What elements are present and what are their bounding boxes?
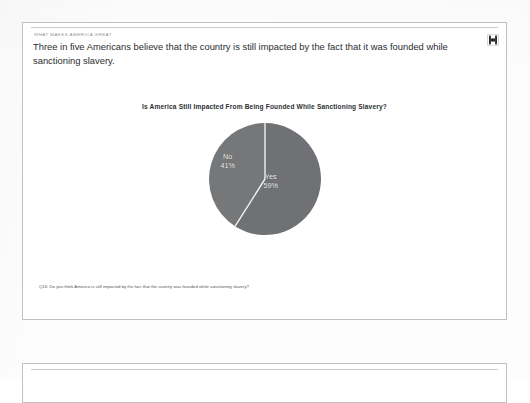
next-slide-top-rule (31, 369, 498, 370)
chart-container: Is America Still Impacted From Being Fou… (23, 103, 506, 237)
brand-logo-icon (487, 32, 499, 44)
chart-title: Is America Still Impacted From Being Fou… (142, 103, 387, 112)
pie-label-no: No 41% (221, 152, 235, 170)
pie-label-no-text: No (223, 152, 232, 161)
slide-page: WHAT MAKES AMERICA GREAT Three in five A… (22, 22, 507, 320)
pie-label-yes-text: Yes (265, 172, 277, 181)
page-title: Three in five Americans believe that the… (33, 40, 481, 68)
pie-label-yes: Yes 59% (264, 172, 278, 190)
slide-eyebrow-label: WHAT MAKES AMERICA GREAT (34, 32, 112, 37)
chart-footnote: Q16: Do you think America is still impac… (39, 284, 269, 290)
pie-chart: No 41% Yes 59% (207, 121, 323, 237)
slide-top-rule (31, 27, 498, 28)
next-slide-page (22, 363, 507, 403)
pie-label-no-percent: 41% (221, 161, 235, 170)
pie-label-yes-percent: 59% (264, 181, 278, 190)
